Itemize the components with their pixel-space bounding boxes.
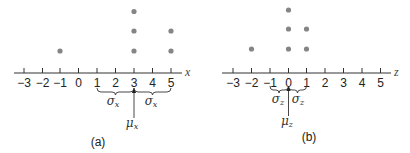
z-axis-ticks	[233, 68, 381, 73]
tick-label: 3	[340, 76, 347, 90]
data-dot	[168, 48, 173, 53]
sigma-label-left: σx	[107, 94, 120, 109]
tick-label: 0	[75, 76, 82, 90]
mean-arrow	[132, 89, 136, 119]
tick-label: −3	[226, 76, 240, 90]
data-dot	[304, 26, 309, 31]
panel-label-a: (a)	[91, 135, 106, 149]
mu-label: μz	[281, 114, 294, 129]
tick-label: 3	[131, 76, 138, 90]
data-dot	[131, 9, 136, 14]
tick-label: 1	[94, 76, 101, 90]
data-dot	[131, 28, 136, 33]
panel-b: −3 −2 −1 0 1 2 3 4 5 z σz σz	[222, 7, 399, 144]
figure-canvas: −3 −2 −1 0 1 2 3 4 5 x σx	[0, 0, 410, 153]
mu-label: μx	[126, 116, 139, 131]
tick-label: −2	[245, 76, 259, 90]
z-axis-label: z	[393, 65, 399, 79]
tick-label: 2	[112, 76, 119, 90]
x-axis-label: x	[184, 65, 191, 79]
z-axis-tick-labels: −3 −2 −1 0 1 2 3 4 5	[226, 76, 384, 90]
data-dot	[286, 26, 291, 31]
data-dots	[249, 7, 309, 51]
tick-label: 2	[322, 76, 329, 90]
data-dot	[304, 46, 309, 51]
sigma-label-right: σz	[292, 92, 305, 107]
tick-label: 5	[168, 76, 175, 90]
mean-arrow	[286, 87, 290, 117]
tick-label: −3	[17, 76, 31, 90]
x-axis-ticks	[24, 68, 171, 73]
sigma-label-right: σx	[145, 94, 158, 109]
tick-label: 5	[377, 76, 384, 90]
tick-label: −1	[53, 76, 67, 90]
tick-label: 4	[149, 76, 156, 90]
data-dot	[57, 48, 62, 53]
data-dot	[131, 48, 136, 53]
data-dots	[57, 9, 173, 54]
sigma-label-left: σz	[272, 92, 285, 107]
data-dot	[168, 28, 173, 33]
data-dot	[286, 7, 291, 12]
tick-label: −2	[36, 76, 50, 90]
data-dot	[286, 46, 291, 51]
panel-label-b: (b)	[302, 130, 317, 144]
panel-a: −3 −2 −1 0 1 2 3 4 5 x σx	[14, 9, 191, 149]
data-dot	[249, 46, 254, 51]
x-axis-tick-labels: −3 −2 −1 0 1 2 3 4 5	[17, 76, 175, 90]
tick-label: 4	[359, 76, 366, 90]
